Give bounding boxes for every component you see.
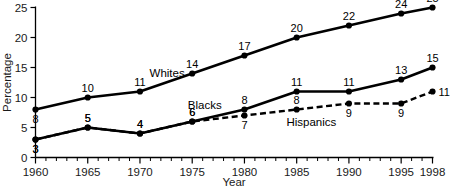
labels-group: 81011141720222425Whites3546811111315Blac… [32,0,449,155]
y-tick-label: 25 [15,2,28,14]
x-tick-label: 1995 [388,166,414,178]
data-point-whites [241,52,247,58]
data-point-whites [294,34,300,40]
x-tick-label: 1970 [127,166,153,178]
data-point-whites [85,94,91,100]
point-label-whites: 10 [82,82,94,94]
series-group [32,4,435,142]
x-axis-title: Year [222,176,245,188]
point-label-hispanics: 9 [398,107,404,119]
series-line-whites [36,8,433,110]
x-tick-label: 1990 [336,166,362,178]
data-point-hispanics [137,130,143,136]
axes-group: 0510152025196019651970197519801985199019… [1,2,445,189]
x-tick-label: 1965 [75,166,101,178]
point-label-hispanics: 4 [137,118,143,130]
data-point-hispanics [189,118,195,124]
data-point-blacks [398,76,404,82]
point-label-blacks: 11 [343,76,354,88]
data-point-hispanics [294,106,300,112]
point-label-hispanics: 3 [32,143,38,155]
point-label-whites: 24 [395,0,407,10]
point-label-whites: 14 [186,58,198,70]
data-point-whites [429,4,435,10]
line-chart: 0510152025196019651970197519801985199019… [0,0,455,191]
x-tick-label: 1960 [23,166,49,178]
point-label-hispanics: 9 [346,107,352,119]
y-tick-label: 10 [15,92,28,104]
point-label-whites: 25 [426,0,438,4]
data-point-blacks [241,106,247,112]
point-label-whites: 11 [134,76,145,88]
point-label-whites: 8 [32,113,38,125]
point-label-hispanics: 6 [189,106,195,118]
point-label-blacks: 11 [291,76,302,88]
data-point-blacks [429,64,435,70]
data-point-whites [398,10,404,16]
data-point-hispanics [429,88,435,94]
series-label-whites: Whites [150,67,185,79]
data-point-whites [346,22,352,28]
data-point-blacks [346,88,352,94]
data-point-hispanics [85,124,91,130]
y-tick-label: 15 [15,62,28,74]
point-label-hispanics: 11 [439,86,450,98]
point-label-blacks: 8 [241,94,247,106]
point-label-hispanics: 5 [85,112,91,124]
x-tick-label: 1998 [420,166,446,178]
y-axis-title: Percentage [1,53,13,112]
series-line-hispanics [36,92,433,140]
y-tick-label: 20 [15,32,28,44]
point-label-blacks: 13 [395,64,407,76]
x-tick-label: 1985 [284,166,310,178]
point-label-blacks: 15 [426,52,438,64]
point-label-hispanics: 8 [294,94,300,106]
point-label-whites: 17 [238,40,250,52]
point-label-hispanics: 7 [241,119,247,131]
point-label-whites: 22 [343,10,355,22]
y-tick-label: 5 [21,122,27,134]
data-point-whites [137,88,143,94]
x-tick-label: 1975 [179,166,205,178]
series-label-hispanics: Hispanics [286,116,336,128]
y-tick-label: 0 [21,152,27,164]
data-point-whites [189,70,195,76]
chart-canvas: 0510152025196019651970197519801985199019… [0,0,455,191]
point-label-whites: 20 [291,22,303,34]
